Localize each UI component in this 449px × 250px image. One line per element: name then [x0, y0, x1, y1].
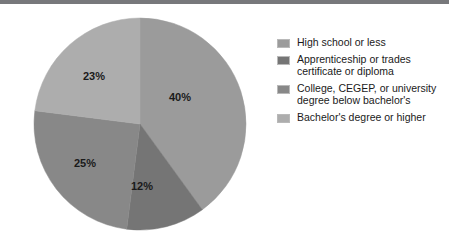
legend-item-label: Apprenticeship or trades certificate or …: [297, 53, 411, 78]
pie-slice-value-label: 12%: [131, 180, 153, 192]
legend-swatch-icon: [277, 39, 290, 48]
pie-slice-college-cegep-or-university-below-bachelors[interactable]: [34, 111, 140, 229]
pie-slice-value-label: 23%: [83, 70, 105, 82]
legend-swatch-icon: [277, 85, 290, 94]
legend-item-label: High school or less: [297, 36, 386, 49]
pie-slice-value-label: 40%: [169, 91, 191, 103]
legend-item-bachelors-degree-or-higher[interactable]: Bachelor's degree or higher: [277, 111, 445, 124]
pie-chart: 40%12%25%23%: [32, 16, 248, 232]
legend-swatch-icon: [277, 56, 290, 65]
chart-legend: High school or less Apprenticeship or tr…: [277, 36, 445, 127]
legend-item-label: Bachelor's degree or higher: [297, 111, 426, 124]
legend-item-high-school-or-less[interactable]: High school or less: [277, 36, 445, 49]
top-divider-rule: [0, 0, 449, 4]
legend-item-label: College, CEGEP, or university degree bel…: [297, 82, 436, 107]
pie-chart-svg: 40%12%25%23%: [32, 16, 248, 232]
legend-item-college-cegep[interactable]: College, CEGEP, or university degree bel…: [277, 82, 445, 107]
chart-page: 40%12%25%23% High school or less Apprent…: [0, 0, 449, 250]
pie-slice-group: [34, 18, 246, 230]
legend-swatch-icon: [277, 114, 290, 123]
legend-item-apprenticeship-or-trades[interactable]: Apprenticeship or trades certificate or …: [277, 53, 445, 78]
pie-slice-value-label: 25%: [74, 157, 96, 169]
